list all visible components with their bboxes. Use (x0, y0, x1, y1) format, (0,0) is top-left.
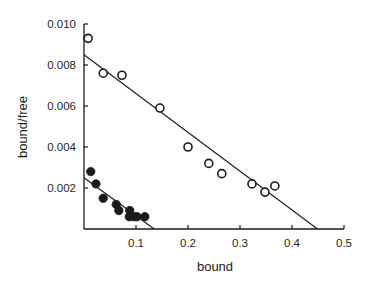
open-circle-marker (118, 71, 126, 79)
open-circle-marker (218, 170, 226, 178)
open-circle-marker (248, 180, 256, 188)
open-circle-marker (184, 143, 192, 151)
open-circle-marker (205, 159, 213, 167)
y-tick-label: 0.004 (47, 141, 76, 153)
open-circle-marker (84, 34, 92, 42)
x-tick-label: 0.1 (128, 237, 144, 249)
open-circle-marker (271, 182, 279, 190)
filled-circle-marker (99, 194, 107, 202)
scatchard-plot: 0.0020.0040.0060.0080.0100.10.20.30.40.5… (0, 0, 372, 282)
x-tick-label: 0.3 (232, 237, 248, 249)
y-tick-label: 0.008 (47, 59, 76, 71)
filled-circle-marker (141, 213, 149, 221)
x-tick-label: 0.4 (284, 237, 301, 249)
y-tick-label: 0.002 (47, 182, 76, 194)
axes: 0.0020.0040.0060.0080.0100.10.20.30.40.5 (47, 18, 352, 249)
open-circle-marker (261, 188, 269, 196)
x-axis-label: bound (197, 259, 233, 274)
filled-circle-marker (87, 167, 95, 175)
filled-circle-marker (115, 206, 123, 214)
x-tick-label: 0.2 (180, 237, 196, 249)
filled-circle-marker (92, 180, 100, 188)
open-circle-marker (156, 104, 164, 112)
x-tick-label: 0.5 (336, 237, 352, 249)
filled-circle-marker (133, 213, 141, 221)
open-circle-marker (99, 69, 107, 77)
y-tick-label: 0.006 (47, 100, 76, 112)
y-axis-label: bound/free (15, 96, 30, 158)
y-tick-label: 0.010 (47, 18, 76, 30)
